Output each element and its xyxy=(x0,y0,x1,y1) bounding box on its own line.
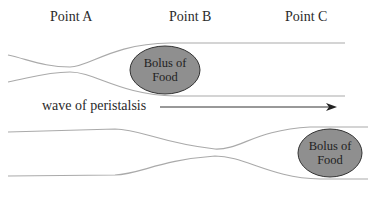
point-b-label: Point B xyxy=(169,9,211,25)
bolus-bottom-label: Bolus of Food xyxy=(298,139,362,167)
point-a-label: Point A xyxy=(50,9,92,25)
wave-label: wave of peristalsis xyxy=(42,98,146,114)
bolus-top-line1: Bolus of xyxy=(130,56,200,70)
bolus-bottom-line1: Bolus of xyxy=(298,139,362,153)
bolus-top-label: Bolus of Food xyxy=(130,56,200,84)
bolus-bottom-line2: Food xyxy=(298,153,362,167)
point-c-label: Point C xyxy=(285,9,327,25)
bolus-top-line2: Food xyxy=(130,70,200,84)
